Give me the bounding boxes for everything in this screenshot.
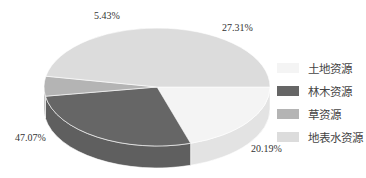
label-forest: 27.31%: [222, 22, 253, 33]
legend-item-land: 土地资源: [277, 56, 363, 79]
legend-swatch-land: [277, 63, 299, 73]
label-grass: 5.43%: [94, 10, 120, 21]
legend-label: 土地资源: [308, 60, 352, 76]
legend-label: 地表水资源: [308, 129, 363, 145]
legend-item-water: 地表水资源: [277, 125, 363, 148]
legend-swatch-forest: [277, 86, 299, 96]
label-water: 47.07%: [15, 132, 46, 143]
legend-swatch-grass: [277, 109, 299, 119]
pie-slice-地表水资源: [46, 28, 270, 87]
legend-item-grass: 草资源: [277, 102, 363, 125]
legend-swatch-water: [277, 132, 299, 142]
legend: 土地资源 林木资源 草资源 地表水资源: [277, 56, 363, 148]
legend-label: 林木资源: [308, 83, 352, 99]
legend-item-forest: 林木资源: [277, 79, 363, 102]
legend-label: 草资源: [308, 106, 341, 122]
